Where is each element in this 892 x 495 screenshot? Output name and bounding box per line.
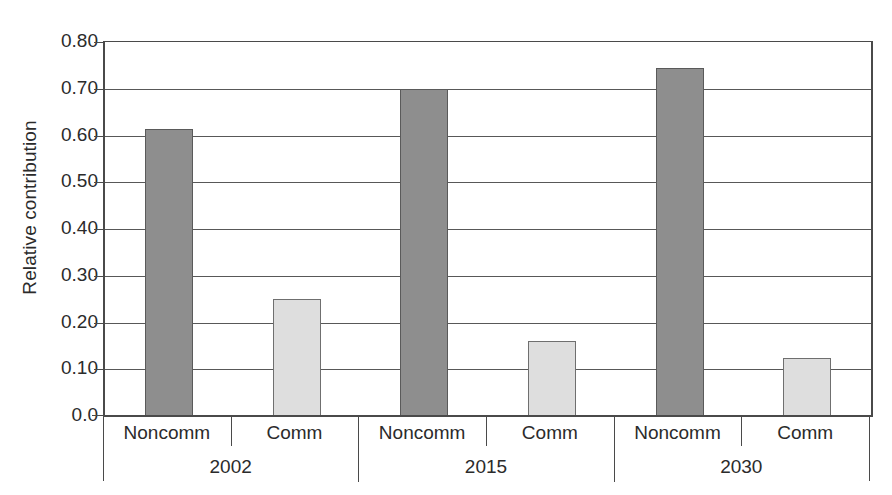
y-axis-tick	[94, 136, 103, 137]
x-axis-minor-separator	[741, 416, 742, 446]
y-axis-ticklabel: 0.60	[36, 124, 98, 146]
bar-2015-noncomm	[400, 89, 448, 416]
y-axis-ticklabel: 0.10	[36, 357, 98, 379]
x-axis-group-separator	[358, 416, 359, 482]
x-axis-group-cells: 200220152030	[103, 450, 871, 484]
plot-area	[103, 41, 873, 417]
y-axis-tick	[94, 182, 103, 183]
x-axis-label-noncomm: Noncomm	[358, 416, 486, 450]
y-axis-ticklabels: 0.800.700.600.500.400.300.200.100.0	[36, 0, 98, 495]
bar-chart: Relative contribution 0.800.700.600.500.…	[0, 0, 892, 495]
x-axis-minor-separator	[486, 416, 487, 446]
y-axis-tick	[94, 42, 103, 43]
y-axis-ticklabel: 0.40	[36, 217, 98, 239]
bar-2002-noncomm	[145, 129, 193, 417]
x-axis-subcategory-cells: NoncommCommNoncommCommNoncommComm	[103, 416, 871, 450]
y-axis-ticklabel: 0.20	[36, 311, 98, 333]
x-axis: NoncommCommNoncommCommNoncommComm 200220…	[103, 416, 871, 491]
bar-2002-comm	[273, 299, 321, 416]
x-axis-label-comm: Comm	[741, 416, 869, 450]
x-axis-group-label-2030: 2030	[614, 450, 869, 484]
x-axis-group-label-2002: 2002	[103, 450, 358, 484]
x-axis-label-noncomm: Noncomm	[614, 416, 742, 450]
y-axis-tick	[94, 229, 103, 230]
x-axis-label-noncomm: Noncomm	[103, 416, 231, 450]
y-axis-ticklabel: 0.30	[36, 264, 98, 286]
y-axis-zero-tick	[92, 415, 103, 416]
y-axis-tick	[94, 369, 103, 370]
bar-2030-noncomm	[656, 68, 704, 416]
y-axis-ticklabel: 0.80	[36, 30, 98, 52]
x-axis-group-separator	[614, 416, 615, 482]
x-axis-label-comm: Comm	[486, 416, 614, 450]
y-axis-ticklabel: 0.50	[36, 170, 98, 192]
x-axis-label-comm: Comm	[231, 416, 359, 450]
x-axis-group-row: 200220152030	[103, 450, 871, 484]
y-axis-ticklabel: 0.0	[36, 404, 98, 426]
x-axis-minor-separator	[231, 416, 232, 446]
bar-2030-comm	[783, 358, 831, 416]
bars-layer	[105, 42, 871, 416]
y-axis-tick	[94, 323, 103, 324]
bar-2015-comm	[528, 341, 576, 416]
y-axis-tick	[94, 276, 103, 277]
x-axis-subcategory-row: NoncommCommNoncommCommNoncommComm	[103, 416, 871, 450]
x-axis-group-label-2015: 2015	[358, 450, 613, 484]
y-axis-tick	[94, 89, 103, 90]
y-axis-ticklabel: 0.70	[36, 77, 98, 99]
